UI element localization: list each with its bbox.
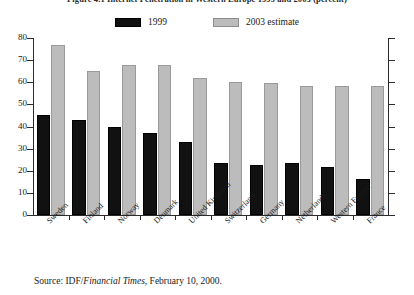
bar-france-2003 xyxy=(371,86,385,215)
bar-western-europe-2003 xyxy=(335,86,349,215)
bar-united-kingdom-2003 xyxy=(193,78,207,215)
y-axis-tick-right xyxy=(389,171,395,172)
x-axis-tick xyxy=(353,216,354,220)
bar-finland-1999 xyxy=(72,120,86,215)
y-axis-tick-label: 70 xyxy=(0,55,27,64)
y-axis-tick-right xyxy=(389,215,395,216)
y-axis-tick-label: 20 xyxy=(0,166,27,175)
bar-denmark-2003 xyxy=(158,65,172,215)
bar-sweden-1999 xyxy=(37,115,51,215)
y-axis-tick-right xyxy=(389,38,395,39)
x-axis-tick xyxy=(69,216,70,220)
figure-container: Figure 4.1 Internet Penetration in Weste… xyxy=(0,0,414,295)
source-note: Source: IDF/Financial Times, February 10… xyxy=(34,276,222,286)
source-publication: Financial Times xyxy=(83,276,145,286)
bar-germany-2003 xyxy=(264,83,278,215)
bar-netherlands-1999 xyxy=(285,163,299,215)
bar-finland-2003 xyxy=(87,71,101,215)
y-axis-tick-label: 80 xyxy=(0,33,27,42)
x-axis-tick xyxy=(211,216,212,220)
y-axis-tick-right xyxy=(389,60,395,61)
x-axis-tick xyxy=(246,216,247,220)
source-suffix: , February 10, 2000. xyxy=(145,276,222,286)
bar-norway-2003 xyxy=(122,65,136,215)
y-axis-tick-label: 0 xyxy=(0,210,27,219)
y-axis-tick-right xyxy=(389,104,395,105)
bar-netherlands-2003 xyxy=(300,86,314,215)
bar-switzerland-2003 xyxy=(229,82,243,215)
bar-germany-1999 xyxy=(250,165,264,215)
x-axis-tick xyxy=(140,216,141,220)
source-prefix: Source: IDF/ xyxy=(34,276,83,286)
plot-wrapper: 01020304050607080 SwedenFinlandNorwayDen… xyxy=(0,0,414,295)
x-axis-tick xyxy=(317,216,318,220)
y-axis-tick-label: 60 xyxy=(0,77,27,86)
bar-norway-1999 xyxy=(108,127,122,216)
bar-denmark-1999 xyxy=(143,133,157,215)
y-axis-tick-right xyxy=(389,149,395,150)
bar-sweden-2003 xyxy=(51,45,65,215)
y-axis-tick-right xyxy=(389,82,395,83)
x-axis-tick xyxy=(282,216,283,220)
y-axis-tick-label: 50 xyxy=(0,99,27,108)
y-axis-tick xyxy=(27,215,33,216)
y-axis-tick-label: 10 xyxy=(0,188,27,197)
bar-united-kingdom-1999 xyxy=(179,142,193,215)
y-axis-tick-label: 30 xyxy=(0,144,27,153)
plot-area xyxy=(33,38,388,215)
y-axis-tick-right xyxy=(389,127,395,128)
x-axis-tick xyxy=(104,216,105,220)
y-axis-tick-right xyxy=(389,193,395,194)
x-axis-tick xyxy=(175,216,176,220)
y-axis-tick-label: 40 xyxy=(0,122,27,131)
